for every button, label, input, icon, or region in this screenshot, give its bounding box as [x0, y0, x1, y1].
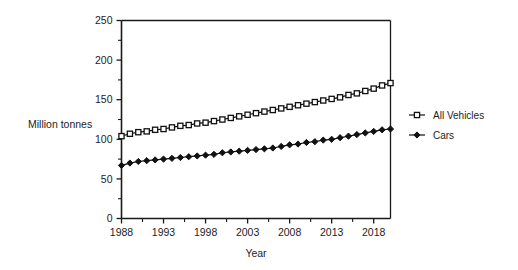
chart-svg: 050100150200250 198819931998200320082013…	[0, 0, 518, 270]
y-tick-label: 100	[95, 133, 113, 145]
chart-figure: 050100150200250 198819931998200320082013…	[0, 0, 518, 270]
x-tick-label: 2008	[278, 226, 302, 238]
y-axis-title: Million tonnes	[28, 118, 92, 130]
y-tick-label: 150	[95, 93, 113, 105]
x-tick-label: 1988	[110, 226, 134, 238]
x-tick-label: 2003	[236, 226, 260, 238]
y-tick-label: 50	[101, 173, 113, 185]
x-axis-title: Year	[245, 247, 267, 259]
legend-label: All Vehicles	[433, 110, 484, 121]
y-tick-label: 200	[95, 54, 113, 66]
x-tick-label: 2018	[362, 226, 386, 238]
legend-label: Cars	[433, 130, 454, 141]
x-tick-label: 2013	[320, 226, 344, 238]
y-tick-label: 0	[107, 212, 113, 224]
legend-marker-open-square	[414, 112, 419, 117]
y-tick-label: 250	[95, 14, 113, 26]
x-tick-label: 1993	[152, 226, 176, 238]
x-tick-label: 1998	[194, 226, 218, 238]
